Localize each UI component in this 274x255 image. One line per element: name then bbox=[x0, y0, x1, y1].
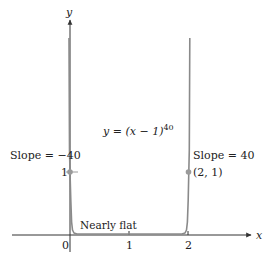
equation-exponent: 40 bbox=[163, 123, 173, 132]
equation-base: y = (x − 1) bbox=[102, 125, 163, 138]
y-tick-label-1: 1 bbox=[61, 166, 68, 179]
y-axis-label: y bbox=[65, 6, 73, 19]
x-tick-label-1: 1 bbox=[126, 239, 133, 252]
point-right-label: (2, 1) bbox=[193, 166, 223, 179]
chart-figure: y x 0 1 2 1 Slope = −40 Slope = 40 (2, 1… bbox=[0, 0, 274, 255]
x-axis-label: x bbox=[256, 229, 263, 242]
x-tick-label-2: 2 bbox=[185, 239, 192, 252]
slope-left-label: Slope = −40 bbox=[10, 149, 81, 162]
x-tick-label-0: 0 bbox=[62, 239, 69, 252]
nearly-flat-label: Nearly flat bbox=[80, 219, 138, 231]
equation-label: y = (x − 1)40 bbox=[102, 123, 174, 138]
point-2-1 bbox=[186, 169, 192, 175]
slope-right-label: Slope = 40 bbox=[193, 149, 254, 162]
point-0-1 bbox=[67, 169, 73, 175]
